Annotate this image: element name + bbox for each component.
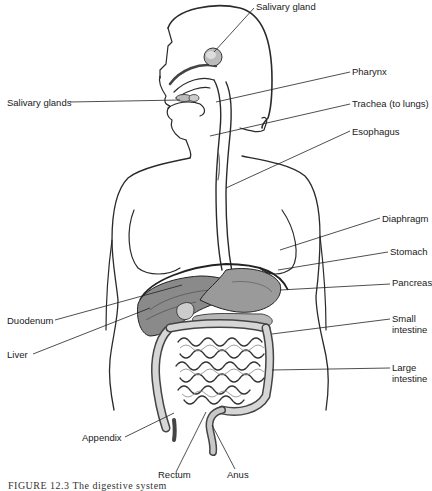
label-stomach: Stomach [390,246,428,257]
sublingual-glands-shape [176,95,199,102]
label-diaphragm: Diaphragm [382,213,428,224]
label-small-intestine: Small intestine [392,313,427,335]
label-trachea: Trachea (to lungs) [352,98,429,109]
label-small-intestine-line1: Small [392,313,427,324]
leader-large-intestine [272,368,390,370]
label-large-intestine-line2: intestine [392,373,427,384]
leader-lines [33,8,390,472]
label-large-intestine: Large intestine [392,362,427,384]
label-pancreas: Pancreas [392,277,432,288]
leader-rectum [176,412,206,472]
leader-salivary-gland [214,8,254,52]
parotid-gland-shape [204,48,222,66]
leader-pancreas [280,284,390,290]
label-salivary-glands: Salivary glands [7,97,71,108]
leader-salivary-glands [70,100,180,102]
label-small-intestine-line2: intestine [392,324,427,335]
label-liver: Liver [7,349,28,360]
label-appendix: Appendix [82,432,122,443]
label-large-intestine-line1: Large [392,362,427,373]
label-duodenum: Duodenum [7,315,53,326]
leader-esophagus [226,131,350,188]
label-anus: Anus [227,469,249,480]
label-pharynx: Pharynx [352,66,387,77]
leader-small-intestine [272,319,390,334]
leader-diaphragm [280,218,380,250]
figure-caption: FIGURE 12.3 The digestive system [8,480,167,491]
label-esophagus: Esophagus [352,126,400,137]
label-salivary-gland: Salivary gland [256,1,316,12]
leader-pharynx [216,72,350,102]
label-rectum: Rectum [158,469,191,480]
